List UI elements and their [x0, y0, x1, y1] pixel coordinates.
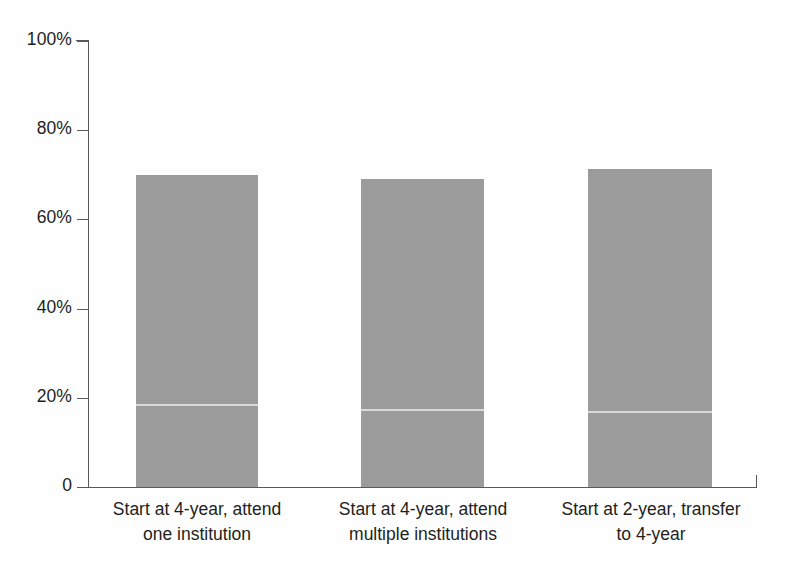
y-tick-label-0: 0: [6, 475, 72, 496]
y-tick-label-20: 20%: [6, 386, 72, 407]
bar-chart: 100% 80% 60% 40% 20% 0 Start at 4-year, …: [0, 0, 789, 572]
y-tick-60: [77, 219, 88, 220]
bar-start-4year-one-institution: [136, 175, 258, 487]
y-tick-40: [77, 309, 88, 310]
category-label-3: Start at 2-year, transfer to 4-year: [556, 497, 746, 547]
y-tick-label-100: 100%: [6, 29, 72, 50]
bar-divider-2: [361, 409, 484, 411]
category-label-2-line-2: multiple institutions: [328, 522, 518, 547]
y-tick-label-40: 40%: [6, 297, 72, 318]
y-tick-20: [77, 398, 88, 399]
category-label-3-line-1: Start at 2-year, transfer: [556, 497, 746, 522]
y-tick-label-80: 80%: [6, 118, 72, 139]
plot-area: [88, 41, 757, 487]
bar-start-2year-transfer-to-4year: [588, 169, 712, 487]
bar-start-4year-multiple-institutions: [361, 179, 484, 487]
y-tick-80: [77, 130, 88, 131]
y-tick-100: [77, 41, 88, 42]
bar-divider-3: [588, 411, 712, 413]
category-label-3-line-2: to 4-year: [556, 522, 746, 547]
y-tick-0: [77, 487, 88, 488]
category-label-1: Start at 4-year, attend one institution: [102, 497, 292, 547]
category-label-2: Start at 4-year, attend multiple institu…: [328, 497, 518, 547]
y-tick-label-60: 60%: [6, 207, 72, 228]
category-label-1-line-2: one institution: [102, 522, 292, 547]
x-axis-line: [88, 487, 757, 488]
bar-divider-1: [136, 404, 258, 406]
category-label-2-line-1: Start at 4-year, attend: [328, 497, 518, 522]
category-label-1-line-1: Start at 4-year, attend: [102, 497, 292, 522]
